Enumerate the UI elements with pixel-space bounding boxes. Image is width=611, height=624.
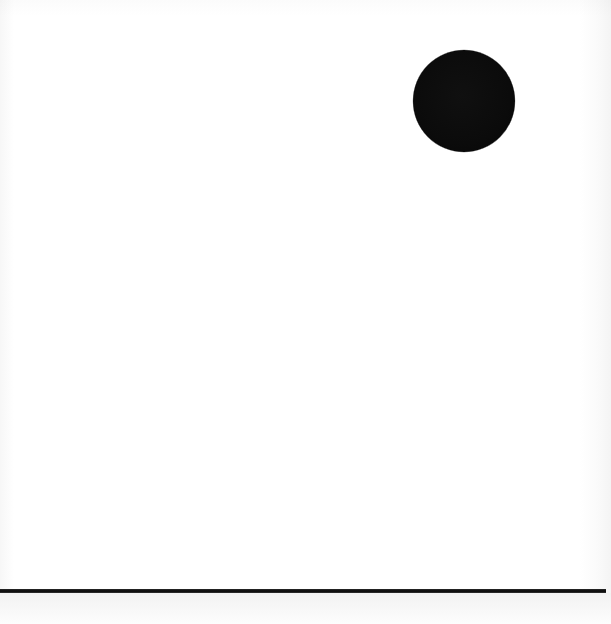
black-circle-marker	[413, 50, 515, 152]
marker-layer	[0, 0, 611, 624]
figure-plate	[0, 0, 611, 624]
horizontal-rule	[0, 589, 606, 593]
